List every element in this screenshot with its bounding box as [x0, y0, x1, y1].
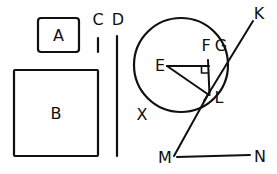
segment-m-n: [177, 155, 250, 157]
diagram-canvas: A B C D E F G L K M N X: [0, 0, 277, 174]
label-g: G: [215, 36, 227, 55]
label-b: B: [51, 104, 62, 123]
segment-l-k: [204, 21, 253, 101]
label-e: E: [155, 56, 165, 75]
label-f: F: [201, 36, 210, 55]
label-n: N: [254, 147, 266, 166]
label-m: M: [158, 148, 172, 167]
segment-e-l: [167, 66, 209, 95]
geometry-figure: A B C D E F G L K M N X: [0, 0, 277, 174]
label-l: L: [215, 88, 224, 107]
label-d: D: [112, 10, 124, 29]
label-k: K: [254, 4, 265, 23]
label-c: C: [92, 10, 103, 29]
label-x: X: [137, 105, 148, 124]
label-a: A: [53, 26, 64, 45]
segment-l-m: [174, 91, 210, 156]
